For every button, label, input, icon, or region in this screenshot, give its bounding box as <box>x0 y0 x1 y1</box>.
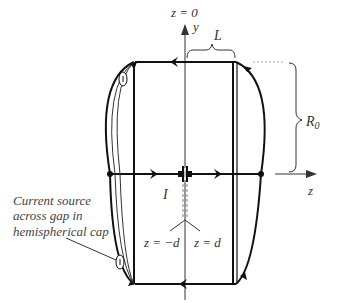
y-axis <box>181 24 189 300</box>
annotation-line-2: across gap in <box>13 208 83 223</box>
z-axis <box>275 170 317 178</box>
annotation-leader <box>66 238 116 260</box>
z-zero-label: z = 0 <box>170 5 198 20</box>
annotation-line-3: hemispherical cap <box>13 224 109 239</box>
length-brace <box>187 44 235 58</box>
current-label: I <box>162 187 169 202</box>
radius-label: R0 <box>305 114 320 131</box>
radius-brace <box>289 63 302 172</box>
y-axis-arrow-icon <box>181 24 189 35</box>
left-node-icon <box>107 171 113 177</box>
z-axis-arrow-icon <box>306 170 317 178</box>
current-loop-diagram: z = 0 y L R0 z I z = −d z = d Current so… <box>0 0 337 303</box>
gap-right-label: z = d <box>193 235 221 250</box>
bottom-conductor <box>135 279 236 289</box>
annotation-line-1: Current source <box>13 193 91 208</box>
gap-left-label: z = −d <box>143 235 180 250</box>
y-axis-label: y <box>191 19 199 34</box>
arrow-up-icon <box>243 66 252 72</box>
length-label: L <box>213 28 222 43</box>
right-node-icon <box>258 171 264 177</box>
z-axis-label: z <box>307 183 313 198</box>
